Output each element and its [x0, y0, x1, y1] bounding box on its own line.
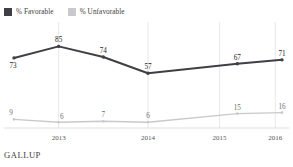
value-label-unfavorable-1: 6	[60, 113, 64, 121]
legend-swatch-favorable	[4, 8, 12, 16]
value-label-unfavorable-0: 9	[9, 109, 13, 117]
gallup-brand-label: GALLUP	[4, 150, 41, 160]
value-label-unfavorable-3: 6	[146, 112, 150, 120]
value-label-unfavorable-5: 15	[234, 104, 241, 112]
legend-swatch-unfavorable	[68, 8, 76, 16]
legend-label-unfavorable: % Unfavorable	[80, 8, 125, 16]
x-axis-tick-labels: 2013201420152016	[0, 133, 293, 145]
x-tick-2015: 2015	[213, 133, 227, 143]
data-point-favorable-1[interactable]	[57, 45, 60, 48]
data-point-unfavorable-0[interactable]	[13, 118, 16, 121]
value-label-favorable-2: 74	[100, 47, 107, 55]
x-tick-2013: 2013	[52, 133, 66, 143]
data-point-favorable-3[interactable]	[146, 72, 149, 75]
gridlines	[59, 22, 276, 128]
data-point-unfavorable-1[interactable]	[57, 121, 60, 124]
data-point-favorable-5[interactable]	[280, 58, 283, 61]
value-label-unfavorable-2: 7	[102, 111, 106, 119]
data-point-unfavorable-3[interactable]	[147, 121, 150, 124]
legend-label-favorable: % Favorable	[16, 8, 54, 16]
data-point-unfavorable-4[interactable]	[236, 112, 239, 115]
legend-item-favorable[interactable]: % Favorable	[4, 8, 54, 16]
value-label-unfavorable-6: 16	[278, 103, 285, 111]
data-point-favorable-2[interactable]	[102, 55, 105, 58]
value-label-favorable-1: 85	[55, 36, 62, 44]
value-label-favorable-3: 57	[144, 63, 151, 71]
legend-item-unfavorable[interactable]: % Unfavorable	[68, 8, 125, 16]
value-label-favorable-6: 71	[278, 50, 285, 58]
data-point-favorable-4[interactable]	[236, 62, 239, 65]
value-label-favorable-0: 73	[9, 62, 16, 70]
gallup-line-chart: % Favorable % Unfavorable 73857457677196…	[0, 0, 293, 167]
data-point-unfavorable-2[interactable]	[102, 120, 105, 123]
x-tick-2016: 2016	[268, 133, 282, 143]
chart-legend: % Favorable % Unfavorable	[4, 6, 125, 18]
value-label-favorable-5: 67	[234, 54, 241, 62]
data-point-favorable-0[interactable]	[12, 56, 15, 59]
data-point-unfavorable-5[interactable]	[281, 111, 284, 114]
x-tick-2014: 2014	[141, 133, 155, 143]
